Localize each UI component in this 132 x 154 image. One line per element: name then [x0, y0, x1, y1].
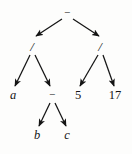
tree-edge-divL-to-minus2 — [35, 55, 50, 86]
tree-node-root: − — [64, 7, 70, 18]
tree-edge-minus2-to-c — [55, 103, 66, 126]
tree-edge-minus2-to-b — [39, 103, 50, 126]
tree-node-b: b — [34, 129, 40, 142]
tree-edge-root-to-divR — [73, 19, 99, 36]
tree-node-divR: / — [98, 40, 102, 53]
tree-node-five: 5 — [75, 89, 81, 102]
tree-node-minus2: − — [49, 89, 55, 100]
tree-edge-group — [15, 19, 114, 126]
tree-node-c: c — [64, 129, 70, 142]
tree-edge-divR-to-five — [80, 55, 98, 86]
tree-node-seven: 17 — [109, 89, 122, 102]
tree-node-a: a — [10, 89, 16, 102]
tree-edge-divL-to-a — [15, 55, 30, 86]
tree-node-divL: / — [30, 40, 34, 53]
expression-tree-figure: −//a−517bc — [0, 0, 132, 154]
tree-edge-divR-to-seven — [103, 55, 114, 86]
tree-edge-root-to-divL — [36, 19, 62, 36]
